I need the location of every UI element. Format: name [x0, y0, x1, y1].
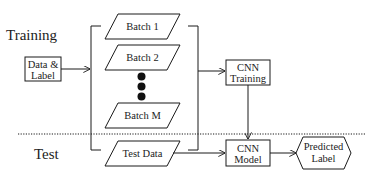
right-bracket	[188, 26, 198, 150]
training-test-pipeline-diagram: Training Test Data & Label Batch 1 Batch…	[0, 0, 377, 178]
batch-1-node: Batch 1	[105, 14, 180, 39]
cnn-model-line2: Model	[234, 154, 261, 165]
test-data-label: Test Data	[123, 148, 163, 159]
batch-2-label: Batch 2	[126, 52, 158, 63]
test-data-node: Test Data	[105, 141, 180, 166]
cnn-training-line1: CNN	[237, 62, 260, 73]
cnn-training-node: CNN Training	[226, 60, 270, 85]
cnn-model-node: CNN Model	[226, 140, 270, 166]
cnn-training-line2: Training	[230, 73, 267, 84]
data-label-line1: Data &	[28, 59, 59, 70]
predicted-label-line1: Predicted	[304, 141, 344, 152]
data-label-node: Data & Label	[25, 57, 61, 81]
predicted-label-line2: Label	[312, 153, 336, 164]
left-bracket	[91, 26, 101, 150]
predicted-label-node: Predicted Label	[296, 137, 351, 169]
cnn-model-line1: CNN	[237, 143, 260, 154]
batch-m-label: Batch M	[124, 110, 161, 121]
data-label-line2: Label	[31, 70, 55, 81]
section-label-test: Test	[34, 146, 60, 162]
batch-1-label: Batch 1	[126, 21, 158, 32]
batch-2-node: Batch 2	[105, 45, 180, 70]
section-label-training: Training	[6, 27, 58, 43]
ellipsis-dots-icon	[138, 73, 146, 101]
batch-m-node: Batch M	[105, 103, 180, 128]
